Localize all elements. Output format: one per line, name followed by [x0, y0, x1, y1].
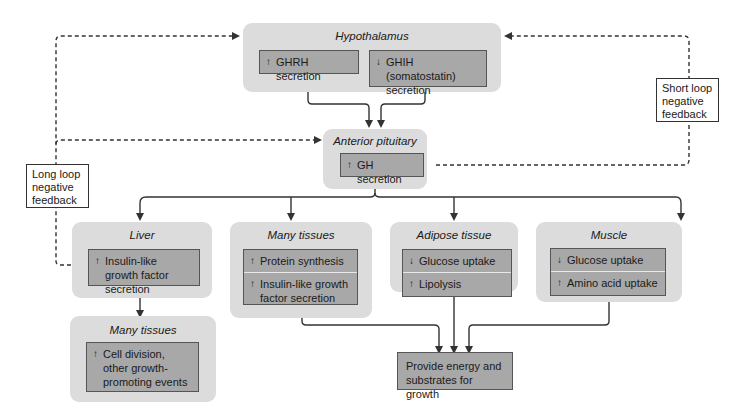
gh-secretion-box: ↑GH secretion — [340, 153, 424, 177]
many-tissues-effects-box: ↑Protein synthesis ↑Insulin-like growth … — [243, 249, 358, 305]
many-tissues-2-group: Many tissues ↑Cell division, other growt… — [70, 316, 216, 402]
ghrh-secretion-box: ↑GHRH secretion — [259, 50, 359, 74]
many-tissues-2-title: Many tissues — [70, 324, 216, 336]
up-arrow-icon: ↑ — [266, 55, 276, 83]
adipose-tissue-title: Adipose tissue — [390, 229, 518, 241]
up-arrow-icon: ↑ — [250, 254, 260, 268]
long-loop-feedback-label: Long loop negative feedback — [26, 164, 89, 208]
adipose-effects-box: ↓Glucose uptake ↑Lipolysis — [402, 249, 512, 297]
cell-division-box: ↑Cell division, other growth-promoting e… — [86, 342, 199, 392]
short-loop-feedback-label: Short loop negative feedback — [656, 78, 719, 122]
muscle-group: Muscle ↓Glucose uptake ↑Amino acid uptak… — [536, 222, 682, 302]
many-tissues-title: Many tissues — [230, 229, 372, 241]
anterior-pituitary-title: Anterior pituitary — [323, 135, 427, 147]
liver-group: Liver ↑Insulin-like growth factor secret… — [72, 222, 212, 298]
anterior-pituitary-group: Anterior pituitary ↑GH secretion — [323, 129, 427, 189]
hypothalamus-group: Hypothalamus ↑GHRH secretion ↓GHIH (soma… — [243, 23, 501, 92]
up-arrow-icon: ↑ — [557, 276, 567, 290]
provide-energy-box: Provide energy and substrates for growth — [397, 352, 513, 390]
up-arrow-icon: ↑ — [347, 158, 357, 186]
down-arrow-icon: ↓ — [409, 254, 419, 268]
muscle-effects-box: ↓Glucose uptake ↑Amino acid uptake — [550, 248, 666, 296]
liver-igf-box: ↑Insulin-like growth factor secretion — [88, 249, 200, 286]
many-tissues-group: Many tissues ↑Protein synthesis ↑Insulin… — [230, 222, 372, 318]
hypothalamus-title: Hypothalamus — [243, 30, 501, 42]
up-arrow-icon: ↑ — [95, 254, 105, 296]
ghih-secretion-box: ↓GHIH (somatostatin) secretion — [369, 50, 487, 87]
adipose-tissue-group: Adipose tissue ↓Glucose uptake ↑Lipolysi… — [390, 222, 518, 292]
up-arrow-icon: ↑ — [250, 277, 260, 305]
down-arrow-icon: ↓ — [557, 253, 567, 267]
up-arrow-icon: ↑ — [93, 347, 103, 389]
down-arrow-icon: ↓ — [376, 55, 386, 97]
liver-title: Liver — [72, 229, 212, 241]
up-arrow-icon: ↑ — [409, 277, 419, 291]
muscle-title: Muscle — [536, 229, 682, 241]
